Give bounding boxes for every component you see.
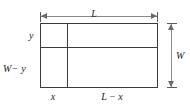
arrowhead-up-icon (168, 24, 174, 30)
label-length-L: L (91, 9, 97, 19)
dimension-line-length (40, 16, 158, 17)
geometry-figure: L W y W− y x L − x (0, 0, 190, 109)
dimension-tick-bottom (167, 87, 177, 88)
arrowhead-left-icon (41, 13, 47, 19)
vertical-divider (67, 23, 68, 88)
label-height-y: y (29, 31, 33, 41)
outer-rectangle (40, 23, 158, 88)
arrowhead-right-icon (151, 13, 157, 19)
dimension-tick-right (157, 12, 158, 22)
horizontal-divider (40, 47, 158, 48)
label-height-W-minus-y: W− y (3, 64, 26, 74)
arrowhead-down-icon (168, 81, 174, 87)
dimension-line-width (171, 23, 172, 88)
label-width-W: W (176, 51, 184, 61)
label-width-L-minus-x: L − x (101, 92, 123, 102)
label-width-x: x (51, 92, 55, 102)
